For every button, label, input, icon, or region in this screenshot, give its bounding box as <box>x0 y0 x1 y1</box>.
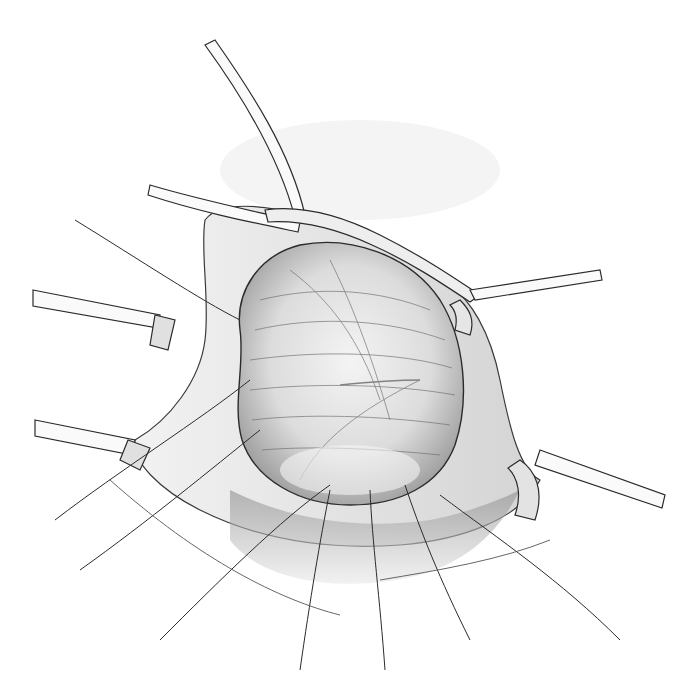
retractor-left-upper <box>33 290 175 350</box>
retractor-right-lower <box>508 450 665 520</box>
surgical-illustration <box>0 0 685 684</box>
retractor-left-lower <box>35 420 150 470</box>
